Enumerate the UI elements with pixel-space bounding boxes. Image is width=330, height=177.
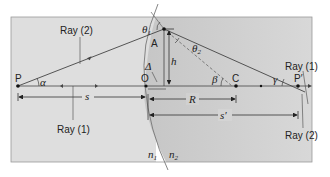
label-s-prime: s′ [220, 109, 227, 121]
ray1-left-label: Ray (1) [57, 124, 90, 135]
label-h: h [171, 55, 177, 67]
point-C [234, 84, 238, 88]
label-gamma: γ [273, 73, 278, 85]
label-A: A [151, 38, 158, 49]
refraction-diagram: Ray (2) Ray (1) Ray (1) Ray (2) P A O C … [0, 0, 330, 177]
label-alpha: α [40, 76, 46, 88]
label-delta: Δ [144, 60, 151, 72]
label-P-prime: P′ [294, 73, 303, 84]
label-beta: β [211, 73, 218, 85]
label-C: C [232, 73, 239, 84]
point-O [144, 84, 147, 87]
label-P: P [15, 73, 22, 84]
point-P [16, 84, 20, 88]
point-P-prime [296, 84, 300, 88]
point-mid [260, 85, 262, 87]
label-R: R [188, 93, 196, 105]
ray1-right-label: Ray (1) [285, 61, 318, 72]
ray2-right-label: Ray (2) [285, 130, 318, 141]
label-O: O [141, 73, 149, 84]
label-s: s [85, 90, 89, 102]
panel-n1 [11, 17, 156, 162]
point-A [162, 27, 166, 31]
ray2-left-label: Ray (2) [60, 25, 93, 36]
